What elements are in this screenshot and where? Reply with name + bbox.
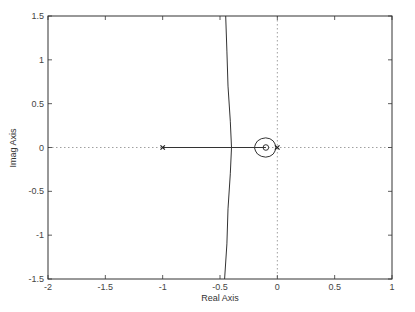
locus-branch-lower-asymptote-branch bbox=[225, 148, 232, 280]
x-tick-label: -1.5 bbox=[98, 282, 114, 292]
x-tick-label: 1 bbox=[389, 282, 394, 292]
plot-area bbox=[48, 16, 392, 279]
y-tick-label: 1 bbox=[39, 55, 44, 65]
y-tick-label: 0 bbox=[39, 143, 44, 153]
x-tick-label: -1 bbox=[159, 282, 167, 292]
root-locus-figure: -2-1.5-1-0.500.51-1.5-1-0.500.511.5 Real… bbox=[0, 0, 415, 312]
x-axis-label: Real Axis bbox=[201, 293, 239, 303]
x-tick-label: 0.5 bbox=[328, 282, 341, 292]
x-tick-label: -2 bbox=[44, 282, 52, 292]
y-tick-label: 1.5 bbox=[31, 11, 44, 21]
locus-branch-upper-asymptote-branch bbox=[226, 16, 232, 148]
x-tick-label: 0 bbox=[275, 282, 280, 292]
y-axis-label: Imag Axis bbox=[8, 128, 18, 168]
y-tick-label: -1.5 bbox=[28, 274, 44, 284]
y-tick-label: -1 bbox=[36, 230, 44, 240]
x-tick-label: -0.5 bbox=[212, 282, 228, 292]
y-tick-label: 0.5 bbox=[31, 99, 44, 109]
y-tick-label: -0.5 bbox=[28, 186, 44, 196]
axis-ticks: -2-1.5-1-0.500.51-1.5-1-0.500.511.5 bbox=[28, 11, 394, 292]
